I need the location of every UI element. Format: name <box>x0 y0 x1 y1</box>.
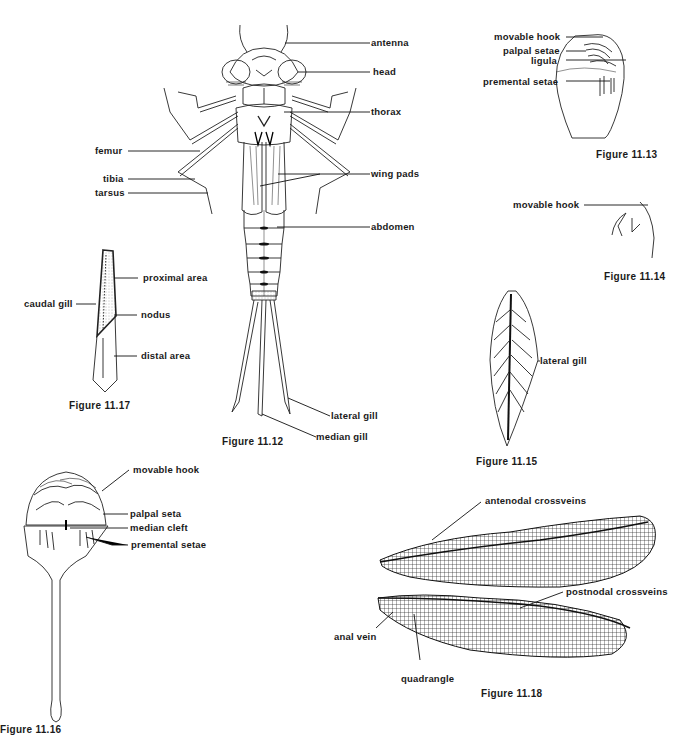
label-palpal-seta: palpal seta <box>130 508 181 519</box>
label-proximal-area: proximal area <box>143 272 207 283</box>
label-wing-pads: wing pads <box>371 168 419 179</box>
label-nodus: nodus <box>141 309 171 320</box>
label-abdomen: abdomen <box>371 221 415 232</box>
damselfly-nymph-drawing <box>164 25 356 416</box>
label-median-gill: median gill <box>316 431 368 442</box>
label-femur: femur <box>95 145 122 156</box>
label-antenna: antenna <box>371 37 409 48</box>
fig-11-12-leader-lines <box>128 43 370 437</box>
caption-figure-11-15: Figure 11.15 <box>476 456 537 467</box>
label-thorax: thorax <box>371 106 401 117</box>
caption-figure-11-16: Figure 11.16 <box>0 724 61 735</box>
label-distal-area: distal area <box>141 350 190 361</box>
label-quadrangle: quadrangle <box>401 673 454 684</box>
label-caudal-gill: caudal gill <box>24 298 73 309</box>
label-tarsus: tarsus <box>95 187 125 198</box>
caption-figure-11-18: Figure 11.18 <box>481 688 542 699</box>
label-lateral-gill: lateral gill <box>331 410 378 421</box>
label-movable-hook-11-16: movable hook <box>133 464 199 475</box>
caption-figure-11-17: Figure 11.17 <box>69 400 130 411</box>
label-lateral-gill-11-15: lateral gill <box>540 355 587 366</box>
caption-figure-11-12: Figure 11.12 <box>222 436 283 447</box>
label-head: head <box>373 66 396 77</box>
label-movable-hook-11-14: movable hook <box>513 199 579 210</box>
label-antenodal-crossveins: antenodal crossveins <box>485 495 586 506</box>
label-median-cleft: median cleft <box>130 522 188 533</box>
label-premental-setae-11-16: premental setae <box>131 539 206 550</box>
label-anal-vein: anal vein <box>334 631 376 642</box>
label-ligula: ligula <box>531 55 557 66</box>
labium-drawing-11-13 <box>556 35 624 138</box>
caudal-gill-drawing-11-17 <box>93 250 117 392</box>
label-tibia: tibia <box>103 173 124 184</box>
label-premental-setae: premental setae <box>483 76 558 87</box>
lateral-gill-drawing-11-15 <box>490 291 538 446</box>
labium-drawing-11-16 <box>24 472 108 722</box>
illustration-canvas <box>0 0 686 736</box>
fig-11-16-leader-lines <box>70 470 129 545</box>
label-movable-hook: movable hook <box>494 31 560 42</box>
caption-figure-11-13: Figure 11.13 <box>596 149 657 160</box>
movable-hook-drawing-11-14 <box>612 202 654 258</box>
caption-figure-11-14: Figure 11.14 <box>604 271 665 282</box>
label-postnodal-crossveins: postnodal crossveins <box>566 586 668 597</box>
